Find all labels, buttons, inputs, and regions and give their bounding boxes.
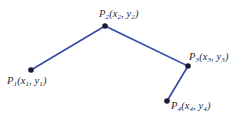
point-label-p1-y-index: 1: [39, 80, 43, 88]
vertex-dot-p4: [164, 98, 170, 104]
point-label-p4: P4(x4, y4): [171, 101, 211, 112]
vertex-dot-p3: [185, 63, 191, 69]
point-label-p4-close: ): [207, 100, 211, 111]
point-label-p2-mid: , y: [121, 8, 131, 19]
point-label-p3-mid: , y: [211, 51, 221, 62]
point-label-p1-close: ): [43, 75, 47, 86]
point-label-p2-base: P: [99, 8, 106, 19]
point-label-p3-base: P: [189, 51, 196, 62]
point-label-p4-y-index: 4: [203, 105, 207, 113]
polyline-diagram: P1(x1, y1) P2(x2, y2) P3(x3, y3) P4(x4, …: [0, 0, 249, 121]
point-label-p3-close: ): [225, 51, 229, 62]
vertex-dot-p2: [102, 23, 108, 29]
point-label-p3-index: 3: [196, 56, 200, 64]
point-label-p3-x-index: 3: [207, 56, 211, 64]
point-label-p4-x-index: 4: [189, 105, 193, 113]
vertex-dot-p1: [28, 67, 34, 73]
point-label-p4-index: 4: [178, 105, 182, 113]
point-label-p2-close: ): [135, 8, 139, 19]
point-label-p2-x-index: 2: [117, 13, 121, 21]
polyline-path: [31, 26, 188, 101]
point-label-p4-mid: , y: [193, 100, 203, 111]
point-label-p1-x-index: 1: [25, 80, 29, 88]
point-label-p2-y-index: 2: [131, 13, 135, 21]
point-label-p1: P1(x1, y1): [7, 76, 47, 87]
point-label-p2: P2(x2, y2): [99, 9, 139, 20]
point-label-p3-y-index: 3: [221, 56, 225, 64]
point-label-p3: P3(x3, y3): [189, 52, 229, 63]
point-label-p4-base: P: [171, 100, 178, 111]
point-label-p1-mid: , y: [29, 75, 39, 86]
point-label-p1-base: P: [7, 75, 14, 86]
point-label-p2-index: 2: [106, 13, 110, 21]
point-label-p1-index: 1: [14, 80, 18, 88]
